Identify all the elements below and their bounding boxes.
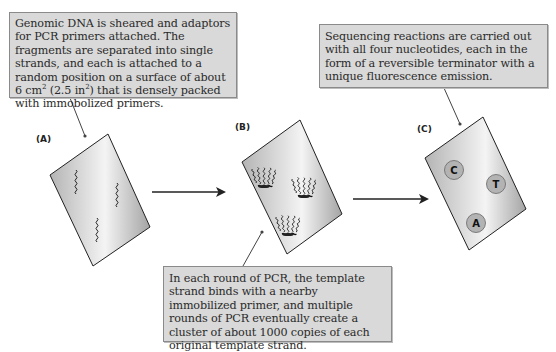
callout-box-c: Sequencing reactions are carried out wit… — [319, 24, 548, 88]
callout-c-text: Sequencing reactions are carried out wit… — [325, 30, 542, 84]
nucleotide-t-circle: T — [487, 175, 506, 194]
callout-box-b: In each round of PCR, the template stran… — [163, 266, 392, 342]
nucleotide-a-circle: A — [467, 214, 486, 233]
callout-box-a: Genomic DNA is sheared and adaptors for … — [9, 12, 237, 98]
callout-a-text: Genomic DNA is sheared and adaptors for … — [15, 17, 231, 111]
nucleotide-c-circle: C — [445, 161, 464, 180]
panel-label-b: (B) — [235, 122, 250, 132]
callout-b-text: In each round of PCR, the template stran… — [169, 272, 386, 352]
panel-label-a: (A) — [36, 134, 51, 144]
nucleotide-label: T — [493, 179, 500, 190]
slide-a — [50, 134, 150, 266]
slide-c: C T A — [425, 117, 526, 250]
callout-a-text-part: (2.5 in — [46, 84, 85, 97]
slide-b — [242, 120, 342, 254]
nucleotide-label: C — [450, 165, 457, 176]
leader-line-b — [243, 230, 264, 266]
nucleotide-label: A — [472, 218, 480, 229]
panel-label-c: (C) — [417, 124, 432, 134]
leader-line-c — [444, 88, 462, 126]
